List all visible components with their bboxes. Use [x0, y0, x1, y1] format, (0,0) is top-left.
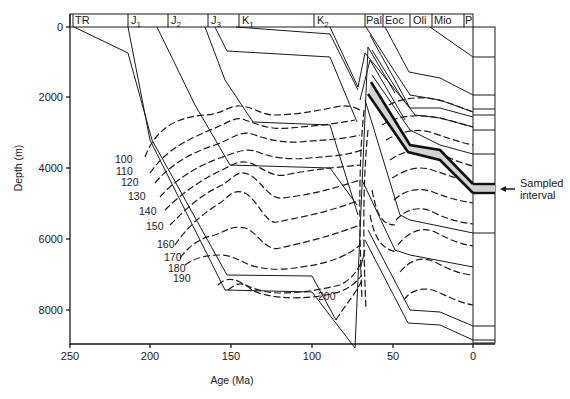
- x-tick-200: 200: [141, 350, 159, 362]
- period-label-oligocene: Oli: [413, 14, 426, 26]
- period-label-paleocene: Pal: [366, 14, 382, 26]
- y-tick-2000: 2000: [39, 91, 63, 103]
- period-label-miocene: Mio: [434, 14, 452, 26]
- annotation-line2: interval: [520, 189, 555, 201]
- y-tick-6000: 6000: [39, 233, 63, 245]
- annotation-line1: Sampled: [520, 177, 563, 189]
- period-label-triassic: TR: [75, 14, 90, 26]
- isotherm-label-120: 120: [121, 176, 139, 188]
- y-axis-title: Depth (m): [12, 145, 24, 192]
- y-tick-0: 0: [57, 21, 63, 33]
- y-tick-4000: 4000: [39, 162, 63, 174]
- x-axis-title: Age (Ma): [210, 374, 253, 386]
- x-tick-50: 50: [387, 350, 399, 362]
- isotherm-label-190: 190: [173, 272, 191, 284]
- isotherm-label-150: 150: [146, 220, 164, 232]
- isotherm-label-160: 160: [157, 238, 175, 250]
- period-label-pliocene: P: [465, 14, 472, 26]
- isotherm-label-130: 130: [128, 190, 146, 202]
- sampled-interval-annotation: Sampled interval: [500, 177, 563, 201]
- period-header: TR J1 J2 J3 K1 K2 Pal Eoc Oli Mio P: [70, 14, 473, 29]
- isotherms: [145, 98, 473, 320]
- x-tick-100: 100: [303, 350, 321, 362]
- x-tick-250: 250: [61, 350, 79, 362]
- isotherm-label-140: 140: [139, 205, 157, 217]
- burial-history-chart: TR J1 J2 J3 K1 K2 Pal Eoc Oli Mio P 0 20…: [0, 0, 570, 399]
- isotherm-label-200: 200: [318, 290, 336, 302]
- x-tick-0: 0: [470, 350, 476, 362]
- stratigraphic-column: [473, 27, 495, 343]
- isotherm-labels: 100 110 120 130 140 150 160 170 180 190 …: [115, 153, 336, 302]
- y-tick-8000: 8000: [39, 304, 63, 316]
- x-tick-150: 150: [222, 350, 240, 362]
- isotherm-label-100: 100: [115, 153, 133, 165]
- arrow-left-icon: [500, 186, 506, 192]
- period-label-eocene: Eoc: [385, 14, 404, 26]
- sampled-interval-fill: [473, 184, 495, 193]
- sampled-interval-band: [368, 82, 473, 193]
